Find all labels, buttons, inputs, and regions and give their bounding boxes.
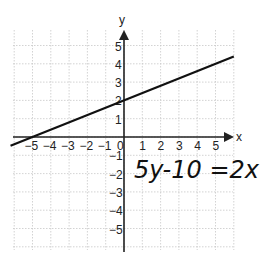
x-tick-label: −5 bbox=[25, 139, 39, 153]
tick-labels: −5−4−3−2−101234554321−1−2−3−4−5 bbox=[25, 40, 220, 237]
axes: x y bbox=[13, 13, 242, 252]
y-tick-label: 1 bbox=[115, 113, 122, 127]
y-tick-label: 4 bbox=[115, 58, 122, 72]
x-tick-label: −4 bbox=[43, 139, 57, 153]
y-tick-label: −2 bbox=[109, 168, 123, 182]
y-axis-label: y bbox=[119, 13, 125, 27]
x-tick-label: 4 bbox=[194, 139, 201, 153]
x-tick-label: −3 bbox=[61, 139, 75, 153]
coordinate-graph: x y −5−4−3−2−101234554321−1−2−3−4−5 5y-1… bbox=[0, 0, 273, 271]
x-tick-label: 1 bbox=[139, 139, 146, 153]
x-tick-label: −2 bbox=[79, 139, 93, 153]
y-tick-label: −4 bbox=[109, 204, 123, 218]
x-axis-arrow-icon bbox=[224, 132, 234, 142]
y-axis-arrow-icon bbox=[119, 30, 129, 40]
y-tick-label: −3 bbox=[109, 186, 123, 200]
x-tick-label: 2 bbox=[158, 139, 165, 153]
x-tick-label: 3 bbox=[176, 139, 183, 153]
y-tick-label: 5 bbox=[115, 40, 122, 54]
equation-line bbox=[11, 56, 234, 145]
x-axis-label: x bbox=[236, 130, 242, 144]
y-tick-label: −1 bbox=[109, 149, 123, 163]
equation-annotation: 5y-10 =2x bbox=[134, 156, 260, 184]
y-tick-label: 3 bbox=[115, 76, 122, 90]
x-tick-label: 5 bbox=[213, 139, 220, 153]
y-tick-label: −5 bbox=[109, 223, 123, 237]
